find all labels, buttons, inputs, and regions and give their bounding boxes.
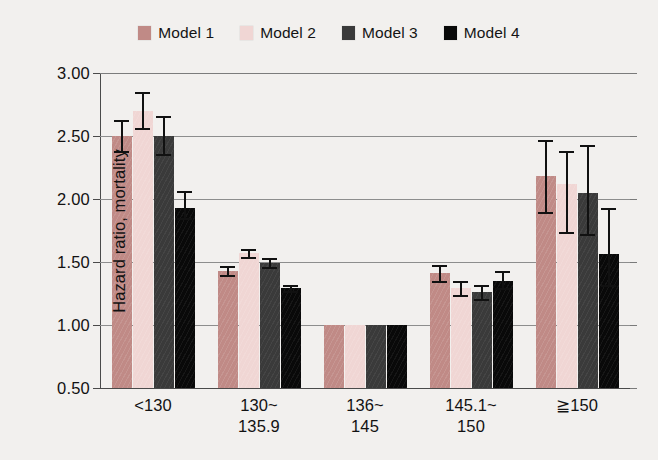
error-bar-cap-lower [241, 257, 256, 259]
bar [451, 288, 471, 388]
y-axis-tick-right [630, 73, 637, 74]
y-axis-tick-right [630, 262, 637, 263]
bar [154, 136, 174, 388]
bar [175, 208, 195, 388]
bar-fill [472, 292, 492, 388]
bar [430, 273, 450, 388]
bar [345, 325, 365, 388]
x-label-line-2: 145 [312, 416, 418, 437]
error-bar-cap-lower [538, 212, 553, 214]
y-axis-tick-label: 1.00 [57, 316, 90, 335]
x-axis-tick-label: ≧150 [524, 395, 630, 416]
x-axis-tick-label: 136~145 [312, 395, 418, 437]
error-bar-stem [608, 208, 610, 285]
y-axis-tick-label: 3.00 [57, 64, 90, 83]
y-axis-tick [93, 262, 100, 263]
error-bar-cap-lower [283, 291, 298, 293]
legend-label: Model 1 [158, 24, 214, 42]
bar-fill [154, 136, 174, 388]
error-bar-cap-lower [601, 285, 616, 287]
bar-fill [239, 253, 259, 388]
error-bar-cap-lower [559, 232, 574, 234]
bar [281, 288, 301, 388]
error-bar-cap-upper [559, 151, 574, 153]
x-label-line-1: 145.1~ [445, 396, 497, 414]
error-bar-stem [460, 281, 462, 295]
error-bar-cap-upper [241, 249, 256, 251]
y-axis-tick [93, 199, 100, 200]
error-bar-stem [121, 120, 123, 152]
error-bar-cap-upper [580, 145, 595, 147]
x-axis-tick-label: 130~135.9 [206, 395, 312, 437]
bar-group [312, 73, 418, 388]
y-axis-tick-right [630, 325, 637, 326]
legend-label: Model 2 [260, 24, 316, 42]
hazard-ratio-bar-chart: Model 1Model 2Model 3Model 4 3.002.502.0… [0, 0, 658, 460]
error-bar-cap-upper [156, 116, 171, 118]
plot-area: 3.002.502.001.501.000.50 <130130~135.913… [100, 73, 630, 388]
bar [472, 292, 492, 388]
x-axis-tick-label: <130 [100, 395, 206, 416]
x-label-line-1: <130 [134, 396, 172, 414]
error-bar-cap-lower [135, 128, 150, 130]
bar-fill [260, 263, 280, 388]
error-bar-cap-lower [220, 275, 235, 277]
y-axis-tick-label: 2.00 [57, 190, 90, 209]
bar-fill [133, 111, 153, 388]
bar-fill [324, 325, 344, 388]
legend-label: Model 4 [464, 24, 520, 42]
y-axis-tick [93, 136, 100, 137]
bar-fill [366, 325, 386, 388]
error-bar-cap-upper [432, 265, 447, 267]
error-bar-cap-lower [432, 281, 447, 283]
error-bar-cap-upper [177, 191, 192, 193]
y-axis-tick-label: 1.50 [57, 253, 90, 272]
bar-fill [218, 271, 238, 388]
bar-groups [100, 73, 630, 388]
x-axis-tick-label: 145.1~150 [418, 395, 524, 437]
error-bar-cap-lower [453, 295, 468, 297]
x-label-line-1: 130~ [240, 396, 278, 414]
error-bar-cap-upper [114, 120, 129, 122]
y-axis-tick-label: 2.50 [57, 127, 90, 146]
bar [493, 281, 513, 388]
bar [387, 325, 407, 388]
legend-item-3: Model 3 [342, 24, 418, 42]
error-bar-cap-upper [262, 258, 277, 260]
x-label-line-2: 150 [418, 416, 524, 437]
error-bar-cap-upper [453, 281, 468, 283]
error-bar-cap-upper [220, 266, 235, 268]
bar [324, 325, 344, 388]
bar-group [418, 73, 524, 388]
bar-fill [281, 288, 301, 388]
error-bar-cap-upper [283, 285, 298, 287]
error-bar-stem [142, 92, 144, 129]
error-bar-stem [163, 116, 165, 154]
bar-group [206, 73, 312, 388]
legend-item-2: Model 2 [240, 24, 316, 42]
legend-swatch-icon [138, 26, 151, 40]
legend-swatch-icon [342, 26, 355, 40]
error-bar-cap-lower [474, 299, 489, 301]
bar-fill [387, 325, 407, 388]
bar [133, 111, 153, 388]
x-label-line-1: 136~ [346, 396, 384, 414]
error-bar-cap-upper [601, 208, 616, 210]
x-label-line-2: 135.9 [206, 416, 312, 437]
error-bar-stem [566, 151, 568, 232]
bar [239, 253, 259, 388]
bar-fill [430, 273, 450, 388]
chart-legend: Model 1Model 2Model 3Model 4 [0, 24, 658, 42]
bar [260, 263, 280, 388]
error-bar-stem [439, 265, 441, 281]
error-bar-cap-upper [538, 140, 553, 142]
gridline [100, 388, 630, 389]
y-axis-tick [93, 388, 100, 389]
error-bar-stem [184, 191, 186, 217]
error-bar-cap-lower [495, 288, 510, 290]
y-axis-tick [93, 325, 100, 326]
y-axis-title: Hazard ratio, mortality [110, 149, 129, 313]
legend-swatch-icon [240, 26, 253, 40]
y-axis-tick [93, 73, 100, 74]
x-label-line-1: ≧150 [556, 396, 598, 414]
